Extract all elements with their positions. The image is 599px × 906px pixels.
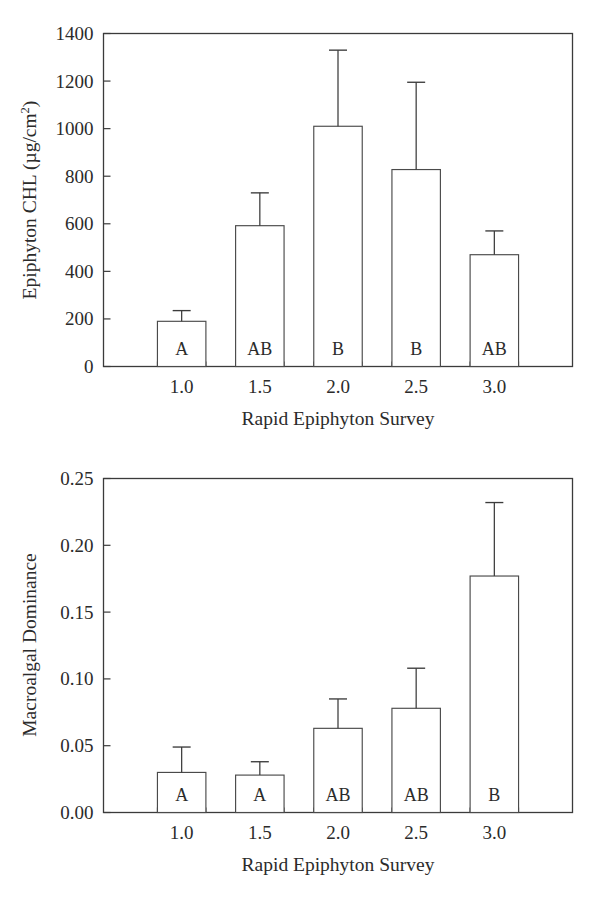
y-tick-label: 0.20 <box>60 535 93 556</box>
x-axis-title-bottom: Rapid Epiphyton Survey <box>242 854 435 875</box>
significance-group-letter: A <box>253 785 266 805</box>
y-tick-label: 800 <box>65 166 94 187</box>
x-axis-title-top-text: Rapid Epiphyton Survey <box>242 408 435 429</box>
significance-group-letter: AB <box>325 785 350 805</box>
x-tick-label: 1.5 <box>248 376 272 397</box>
bar <box>314 126 362 366</box>
x-axis-title-top: Rapid Epiphyton Survey <box>242 408 435 429</box>
x-tick-label: 1.0 <box>170 822 194 843</box>
x-axis-tick-labels-bottom: 1.01.52.02.53.0 <box>170 822 506 843</box>
group-letters-bottom: AAABABB <box>175 785 500 805</box>
y-axis-title-top-tail: ) <box>19 101 41 108</box>
bar <box>470 576 518 812</box>
figure-two-panel-bar-charts: 0200400600800100012001400 1.01.52.02.53.… <box>0 0 599 906</box>
significance-group-letter: AB <box>482 339 507 359</box>
x-axis-title-bottom-text: Rapid Epiphyton Survey <box>242 854 435 875</box>
panel-macroalgal-dominance: 0.000.050.100.150.200.25 1.01.52.02.53.0… <box>0 453 599 906</box>
panel-epiphyton-chl: 0200400600800100012001400 1.01.52.02.53.… <box>0 0 599 453</box>
significance-group-letter: A <box>175 339 188 359</box>
x-tick-label: 2.0 <box>326 376 350 397</box>
x-tick-label: 3.0 <box>482 376 506 397</box>
bar <box>392 170 440 367</box>
y-axis-title-bottom: Macroalgal Dominance <box>19 553 40 737</box>
x-tick-label: 2.0 <box>326 822 350 843</box>
y-axis-tick-labels-bottom: 0.000.050.100.150.200.25 <box>60 468 93 823</box>
bars-top <box>157 126 518 366</box>
significance-group-letter: AB <box>247 339 272 359</box>
y-tick-label: 200 <box>65 308 94 329</box>
y-axis-title-top: Epiphyton CHL (µg/cm2) <box>18 101 41 300</box>
y-axis-ticks-bottom <box>104 479 111 813</box>
chart-svg-top: 0200400600800100012001400 1.01.52.02.53.… <box>0 0 599 453</box>
y-tick-label: 0.00 <box>60 802 93 823</box>
y-tick-label: 1200 <box>56 71 94 92</box>
group-letters-top: AABBBAB <box>175 339 507 359</box>
y-tick-label: 0.05 <box>60 735 93 756</box>
y-tick-label: 0.25 <box>60 468 93 489</box>
significance-group-letter: B <box>332 339 344 359</box>
bars-bottom <box>157 576 518 812</box>
x-tick-label: 3.0 <box>482 822 506 843</box>
x-tick-label: 1.0 <box>170 376 194 397</box>
y-tick-label: 0.15 <box>60 602 93 623</box>
significance-group-letter: B <box>410 339 422 359</box>
y-axis-ticks-top <box>104 34 111 367</box>
y-tick-label: 600 <box>65 213 94 234</box>
x-tick-label: 2.5 <box>404 376 428 397</box>
chart-svg-bottom: 0.000.050.100.150.200.25 1.01.52.02.53.0… <box>0 453 599 906</box>
significance-group-letter: AB <box>404 785 429 805</box>
significance-group-letter: B <box>488 785 500 805</box>
y-tick-label: 400 <box>65 261 94 282</box>
x-axis-tick-labels-top: 1.01.52.02.53.0 <box>170 376 506 397</box>
x-tick-label: 1.5 <box>248 822 272 843</box>
y-axis-tick-labels-top: 0200400600800100012001400 <box>56 23 94 377</box>
y-tick-label: 1000 <box>56 118 94 139</box>
svg-text:Epiphyton CHL (µg/cm2): Epiphyton CHL (µg/cm2) <box>18 101 41 300</box>
y-tick-label: 0.10 <box>60 668 93 689</box>
y-axis-title-bottom-text: Macroalgal Dominance <box>19 553 40 737</box>
significance-group-letter: A <box>175 785 188 805</box>
y-tick-label: 1400 <box>56 23 94 44</box>
x-tick-label: 2.5 <box>404 822 428 843</box>
y-axis-title-top-text: Epiphyton CHL (µg/cm <box>19 113 41 299</box>
y-tick-label: 0 <box>84 356 94 377</box>
